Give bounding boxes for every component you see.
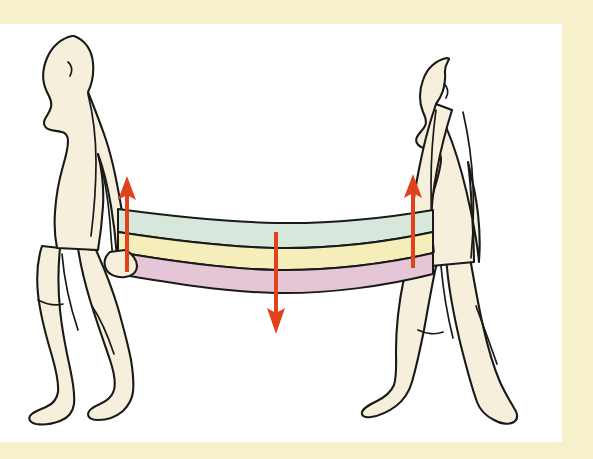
illustration-stage: Two figures carrying a sagging three-lay… <box>0 0 593 459</box>
left-person-thigh-contour <box>62 254 78 330</box>
illustration-drawing <box>0 0 593 459</box>
right-person-front-leg <box>447 252 517 424</box>
border-right <box>562 0 593 459</box>
left-person-hand <box>105 250 137 277</box>
border-top <box>0 0 593 24</box>
border-bottom <box>0 442 593 459</box>
left-person-front-leg <box>29 246 74 424</box>
